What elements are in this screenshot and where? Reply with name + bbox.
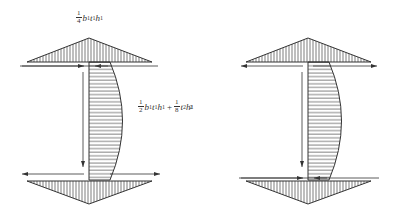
frac-den: 4 xyxy=(76,18,82,25)
top-flange-triangle xyxy=(246,38,371,62)
bottom-flange-triangle xyxy=(27,181,152,204)
web-parabola xyxy=(308,62,342,180)
frac-den: 8 xyxy=(174,107,180,114)
top-flange-max-label: 1 4 b1 t1 h1 xyxy=(76,10,103,25)
sub-1: 1 xyxy=(162,104,165,110)
bottom-flange-triangle xyxy=(246,181,371,204)
plus-sign: + xyxy=(167,102,172,112)
shear-flow-diagrams xyxy=(0,0,397,224)
sub-1: 1 xyxy=(100,15,103,21)
sup-2: 2 xyxy=(190,104,193,110)
fraction-quarter: 1 4 xyxy=(76,10,82,25)
web-parabola xyxy=(89,62,123,180)
frac-den: 2 xyxy=(138,107,144,114)
web-max-label: 1 2 b1 t1 h1 + 1 8 t2 h12 xyxy=(138,99,193,114)
fraction-half: 1 2 xyxy=(138,99,144,114)
right-diagram xyxy=(239,38,379,204)
fraction-eighth: 1 8 xyxy=(174,99,180,114)
left-diagram xyxy=(20,38,160,204)
top-flange-triangle xyxy=(27,38,152,62)
